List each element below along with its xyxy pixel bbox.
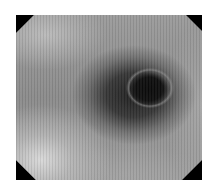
endoscopy-image-frame bbox=[16, 15, 202, 180]
image-canvas: Grayscale endoscopic view of a tubular l… bbox=[0, 0, 212, 190]
endoscopy-image bbox=[16, 15, 202, 180]
